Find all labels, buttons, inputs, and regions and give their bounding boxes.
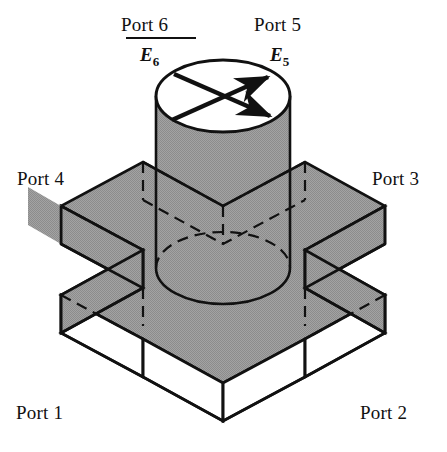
label-port-3: Port 3: [372, 168, 419, 190]
label-field-e6-symbol: E: [140, 44, 153, 65]
label-port-6: Port 6: [121, 14, 168, 36]
label-field-e5: E5: [270, 44, 289, 70]
label-port-1: Port 1: [16, 402, 63, 424]
label-port-5: Port 5: [254, 14, 301, 36]
label-field-e5-symbol: E: [270, 44, 283, 65]
label-port-2: Port 2: [360, 402, 407, 424]
port4-edge-filler: [28, 187, 61, 244]
waveguide-junction-figure: Port 6 Port 5 Port 4 Port 3 Port 1 Port …: [0, 0, 447, 452]
label-field-e6: E6: [140, 44, 159, 70]
isometric-scene: [0, 0, 447, 452]
label-field-e6-subscript: 6: [153, 54, 160, 69]
label-field-e5-subscript: 5: [283, 54, 290, 69]
label-port-4: Port 4: [17, 168, 64, 190]
